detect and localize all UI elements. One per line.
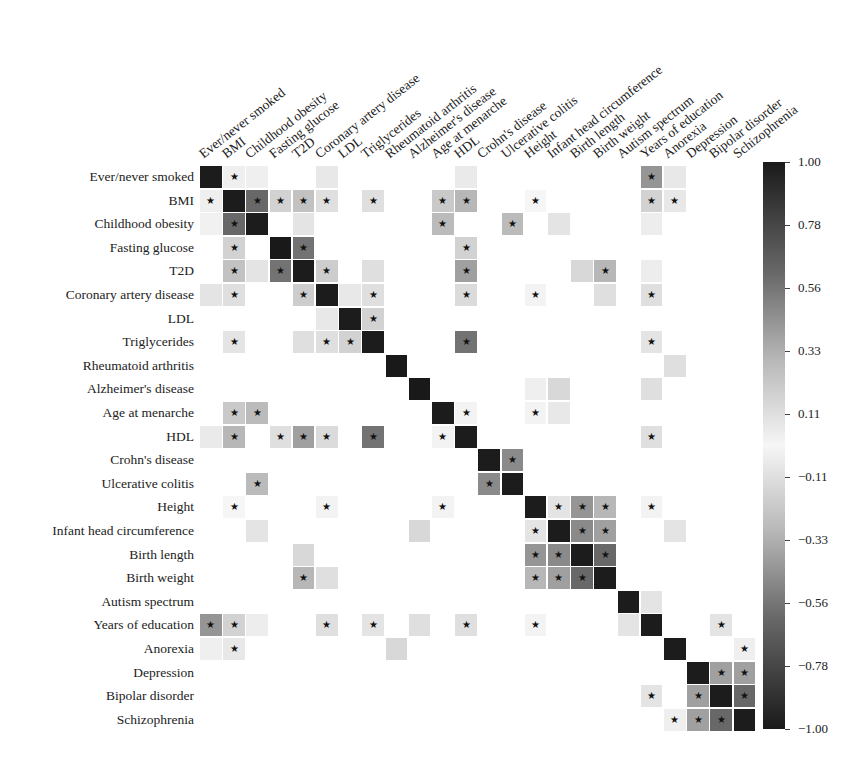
significance-star-icon: ★ [455,337,477,347]
colorbar-tick-mark [785,162,790,163]
heatmap-cell-diagonal [339,308,361,330]
significance-star-icon: ★ [594,526,616,536]
row-label: Coronary artery disease [66,287,194,303]
significance-star-icon: ★ [455,290,477,300]
significance-star-icon: ★ [432,502,454,512]
row-label: BMI [168,193,194,209]
colorbar [763,162,785,729]
row-label: Schizophrenia [117,712,194,728]
heatmap-cell [641,378,663,400]
row-label: Alzheimer's disease [87,381,194,397]
significance-star-icon: ★ [362,620,384,630]
significance-star-icon: ★ [525,620,547,630]
row-label: Ulcerative colitis [101,476,194,492]
heatmap-cell-diagonal [641,614,663,636]
significance-star-icon: ★ [664,196,686,206]
heatmap-cell [270,237,292,259]
heatmap-cell-diagonal [293,260,315,282]
heatmap-cell [200,284,222,306]
heatmap-cell [641,260,663,282]
significance-star-icon: ★ [594,502,616,512]
heatmap-cell [571,260,593,282]
significance-star-icon: ★ [270,266,292,276]
significance-star-icon: ★ [362,314,384,324]
row-label: Autism spectrum [101,594,194,610]
significance-star-icon: ★ [594,550,616,560]
heatmap-cell [664,520,686,542]
heatmap-cell [409,378,431,400]
significance-star-icon: ★ [594,266,616,276]
colorbar-tick-mark [785,414,790,415]
heatmap-cell [386,355,408,377]
significance-star-icon: ★ [316,502,338,512]
significance-star-icon: ★ [641,337,663,347]
row-label: Years of education [93,617,194,633]
significance-star-icon: ★ [223,644,245,654]
colorbar-tick-mark [785,477,790,478]
significance-star-icon: ★ [455,243,477,253]
significance-star-icon: ★ [548,550,570,560]
significance-star-icon: ★ [223,502,245,512]
row-label: Height [157,499,194,515]
significance-star-icon: ★ [710,715,732,725]
significance-star-icon: ★ [432,196,454,206]
significance-star-icon: ★ [478,479,500,489]
heatmap-cell-diagonal [734,709,756,731]
row-label: Fasting glucose [110,240,194,256]
colorbar-tick-mark [785,288,790,289]
row-label: HDL [166,429,194,445]
heatmap-cell [548,378,570,400]
heatmap-cell-diagonal [362,331,384,353]
heatmap-cell-diagonal [246,213,268,235]
significance-star-icon: ★ [270,196,292,206]
genetic-correlation-heatmap: Ever/never smokedBMIChildhood obesityFas… [0,0,858,767]
row-label: Bipolar disorder [106,688,194,704]
heatmap-cell-diagonal [548,520,570,542]
row-label: Birth length [129,547,194,563]
significance-star-icon: ★ [200,620,222,630]
significance-star-icon: ★ [223,620,245,630]
heatmap-cell [525,378,547,400]
heatmap-cell [200,213,222,235]
significance-star-icon: ★ [525,573,547,583]
significance-star-icon: ★ [525,196,547,206]
heatmap-cell-diagonal [710,685,732,707]
heatmap-cell [246,166,268,188]
significance-star-icon: ★ [246,479,268,489]
significance-star-icon: ★ [525,526,547,536]
significance-star-icon: ★ [339,337,361,347]
significance-star-icon: ★ [223,432,245,442]
heatmap-cell [409,520,431,542]
heatmap-cell-diagonal [478,449,500,471]
colorbar-tick-label: −0.56 [798,596,828,610]
colorbar-tick-label: −0.78 [798,659,828,673]
significance-star-icon: ★ [293,243,315,253]
row-label: Triglycerides [123,334,195,350]
significance-star-icon: ★ [200,196,222,206]
colorbar-tick-label: 0.11 [798,407,820,421]
row-label: LDL [168,311,194,327]
colorbar-tick-mark [785,729,790,730]
significance-star-icon: ★ [710,668,732,678]
significance-star-icon: ★ [270,432,292,442]
colorbar-tick-mark [785,666,790,667]
colorbar-tick-label: 0.78 [798,218,821,232]
heatmap-cell [409,614,431,636]
heatmap-cell [455,166,477,188]
significance-star-icon: ★ [362,432,384,442]
heatmap-cell [641,591,663,613]
heatmap-cell [548,402,570,424]
significance-star-icon: ★ [641,691,663,701]
significance-star-icon: ★ [710,620,732,630]
colorbar-tick-mark [785,540,790,541]
significance-star-icon: ★ [548,502,570,512]
heatmap-cell-diagonal [455,426,477,448]
significance-star-icon: ★ [316,620,338,630]
significance-star-icon: ★ [641,172,663,182]
significance-star-icon: ★ [293,432,315,442]
significance-star-icon: ★ [316,266,338,276]
row-label: Ever/never smoked [89,169,194,185]
significance-star-icon: ★ [223,408,245,418]
significance-star-icon: ★ [293,573,315,583]
heatmap-cell [293,213,315,235]
